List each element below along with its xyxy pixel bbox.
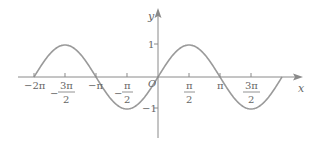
svg-text:π: π xyxy=(124,80,131,91)
origin-label: O xyxy=(148,78,156,89)
svg-text:−: − xyxy=(50,88,58,99)
svg-text:2: 2 xyxy=(63,94,69,105)
svg-text:2: 2 xyxy=(124,94,130,105)
x-tick-label-pi: π xyxy=(217,80,224,91)
svg-text:2: 2 xyxy=(248,94,254,105)
x-tick-label-neg-3pi-2: − 3π 2 xyxy=(50,80,75,105)
x-tick-label-neg-2pi: −2π xyxy=(24,80,46,91)
svg-text:2: 2 xyxy=(186,94,192,105)
svg-text:3π: 3π xyxy=(245,80,258,91)
y-tick-label-neg1: −1 xyxy=(142,103,157,114)
y-tick-label-1: 1 xyxy=(148,39,154,50)
svg-text:3π: 3π xyxy=(60,80,73,91)
x-axis-label: x xyxy=(298,82,305,95)
x-tick-label-neg-pi-2: − π 2 xyxy=(114,80,133,105)
sine-chart: y x O 1 −1 −2π −π π − 3π 2 − π 2 π 2 3π … xyxy=(0,0,314,142)
y-axis-label: y xyxy=(147,10,155,23)
x-tick-label-neg-pi: −π xyxy=(88,80,103,91)
x-tick-label-pi-2: π 2 xyxy=(184,80,195,105)
svg-text:π: π xyxy=(186,80,193,91)
svg-text:−: − xyxy=(114,88,122,99)
x-tick-label-3pi-2: 3π 2 xyxy=(243,80,260,105)
